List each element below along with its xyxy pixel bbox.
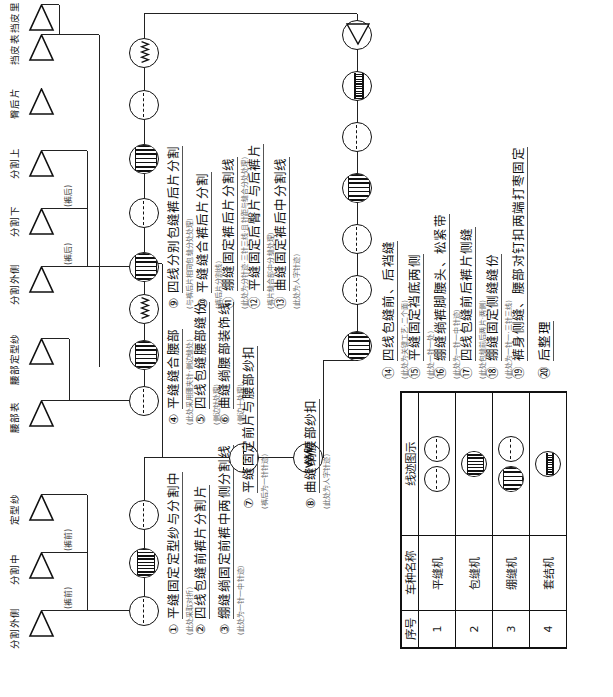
legend-name-3: 绷缝机 [493, 536, 530, 611]
step-title-10: 平缝缝合裤后片分割 [192, 172, 212, 293]
material-input-5 [28, 338, 55, 365]
step-title-18: 绷缝固定侧缝缝份 [482, 254, 502, 361]
legend-row: 2 包缝机 [456, 393, 493, 648]
node-step-3[interactable] [129, 500, 159, 530]
step-no-5: ⑤ [193, 413, 208, 425]
legend-table: 序号 车种名称 线迹图示 1 平缝机 2 包缝机 [400, 391, 567, 649]
node-step-19[interactable] [342, 71, 372, 101]
node-step-2[interactable] [129, 548, 159, 578]
node-step-17[interactable] [342, 173, 372, 203]
material-group-front-2: (裤前) [62, 529, 73, 551]
step-no-18: ⑱ [485, 366, 500, 379]
legend-no-2: 2 [456, 611, 493, 648]
step-title-15: 平缝固定裆底两侧 [404, 254, 424, 361]
caption-step-13: ⑬ 曲缝固定裤后中分割线 (此处为人字针迹) [270, 157, 301, 309]
step-no-13: ⑬ [273, 296, 288, 309]
legend-symbol-1 [419, 393, 455, 535]
step-title-3: 绷缝绱固定前裤中两侧分割线 [214, 445, 234, 619]
step-title-17: 四线包缝前后裤片侧缝 [456, 227, 476, 361]
step-no-15: ⑮ [407, 366, 422, 379]
node-step-1[interactable] [129, 596, 159, 626]
node-step-4[interactable] [129, 386, 159, 416]
legend-symbol-2 [456, 393, 492, 535]
material-label-11: 挡皮里 [10, 2, 20, 33]
step-note-13: (此处为人字针迹) [291, 157, 301, 309]
node-step-20[interactable] [342, 20, 372, 50]
step-note-7: (裤后为一针针迹) [259, 346, 269, 509]
step-title-9: 四线分别包缝裤后片分割 [163, 146, 183, 293]
legend-no-3: 3 [493, 611, 530, 648]
node-step-12[interactable] [129, 90, 159, 120]
material-group-rear-2: (裤后) [62, 185, 73, 207]
node-step-13[interactable] [129, 38, 159, 68]
step-title-19: 裤身侧缝、腰部对钉扣两端打枣固定 [508, 147, 528, 361]
flowchart-canvas: 分割外侧 分割中 定型纱 (裤前) (裤前) 腰部表 腰部定型纱 分割外侧 分割… [0, 0, 613, 697]
legend-symbol-4 [530, 393, 566, 535]
step-no-3: ③ [217, 623, 232, 635]
legend-symbol-3 [493, 393, 529, 535]
step-no-10: ⑩ [195, 297, 210, 309]
step-no-12: ⑫ [247, 296, 262, 309]
caption-step-2: ② 四线包缝前裤片分割片 [190, 485, 210, 635]
step-title-5: 四线包缝腰部缝份 [190, 302, 210, 409]
step-no-16: ⑯ [433, 366, 448, 379]
legend-name-2: 包缝机 [456, 536, 493, 611]
caption-step-19: ⑲ 裤身侧缝、腰部对钉扣两端打枣固定 [508, 147, 528, 379]
material-group-front-1: (裤前) [62, 587, 73, 609]
material-label-3: 定型纱 [10, 494, 20, 525]
node-step-10[interactable] [129, 198, 159, 228]
step-no-8: ⑧ [303, 497, 318, 509]
node-step-5[interactable] [129, 340, 159, 370]
material-input-10 [28, 34, 55, 61]
legend-row: 1 平缝机 [419, 393, 456, 648]
step-no-11: ⑪ [221, 296, 236, 309]
node-step-11[interactable] [129, 144, 159, 174]
step-title-16: 绷缝绱裤脚腰头、松紧带 [430, 214, 450, 361]
step-title-6: 曲缝绱腰部装饰线 [214, 302, 234, 409]
step-title-11: 绷缝固定裤后片分割线 [218, 157, 238, 291]
material-input-3 [28, 494, 55, 521]
material-label-8: 分割上 [10, 148, 20, 179]
step-title-13: 曲缝固定裤后中分割线 [270, 157, 290, 291]
material-input-8 [28, 150, 55, 177]
caption-step-8: ⑧ 曲缝绱腰部纱扣 (此处为人字针迹) [300, 399, 331, 509]
legend-no-4: 4 [530, 611, 567, 648]
step-title-14: 四线包缝前、后裆缝 [378, 241, 398, 362]
caption-step-20: ⑳ 后整理 [534, 321, 554, 379]
node-step-18[interactable] [342, 122, 372, 152]
legend-header-symbol: 线迹图示 [402, 393, 419, 536]
step-no-7: ⑦ [241, 497, 256, 509]
step-no-6: ⑥ [217, 413, 232, 425]
material-input-2 [28, 552, 55, 579]
node-step-15[interactable] [342, 275, 372, 305]
material-input-6 [28, 266, 55, 293]
material-label-10: 挡皮表 [10, 34, 20, 65]
caption-step-9: ⑨ 四线分别包缝裤后片分割 (与裤后片相同包缝分处处理) [163, 146, 194, 309]
material-label-5: 腰部定型纱 [10, 334, 20, 386]
node-step-16[interactable] [342, 224, 372, 254]
node-step-14[interactable] [342, 331, 372, 361]
step-no-2: ② [193, 623, 208, 635]
node-step-6[interactable] [129, 294, 159, 324]
step-no-14: ⑭ [381, 366, 396, 379]
step-title-8: 曲缝绱腰部纱扣 [300, 399, 320, 493]
material-input-11 [28, 4, 55, 31]
step-no-1: ① [166, 623, 181, 635]
material-label-7: 分割下 [10, 206, 20, 237]
step-title-2: 四线包缝前裤片分割片 [190, 485, 210, 619]
caption-step-7: ⑦ 平缝固定前片与腰部纱扣 (裤后为一针针迹) [238, 346, 269, 509]
step-no-4: ④ [166, 413, 181, 425]
step-title-4: 平缝缝合腰部 [163, 329, 183, 409]
step-no-19: ⑲ [511, 366, 526, 379]
legend-row: 3 绷缝机 [493, 393, 530, 648]
legend-header-no: 序号 [402, 611, 419, 648]
step-no-9: ⑨ [166, 297, 181, 309]
step-title-20: 后整理 [534, 321, 554, 361]
legend-name-4: 套结机 [530, 536, 567, 611]
step-no-17: ⑰ [459, 366, 474, 379]
node-step-9[interactable] [129, 252, 159, 282]
material-input-4 [28, 400, 55, 427]
material-group-rear-1: (裤后) [62, 243, 73, 265]
legend-no-1: 1 [419, 611, 456, 648]
material-input-9 [28, 88, 55, 115]
